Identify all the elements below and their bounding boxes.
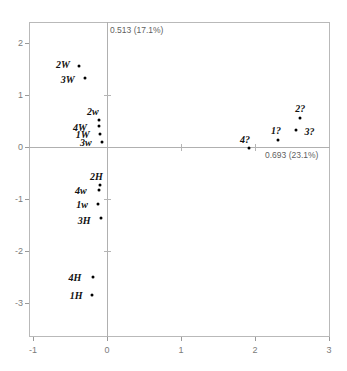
data-point-label: 3H <box>78 214 91 225</box>
y-tick-label: 2 <box>5 38 23 48</box>
data-point <box>91 276 94 279</box>
data-point-label: 4? <box>240 134 250 145</box>
data-point-label: 4H <box>69 272 82 283</box>
data-point <box>299 117 302 120</box>
x-tick <box>255 337 256 341</box>
data-point <box>97 125 100 128</box>
data-point-label: 1H <box>70 290 83 301</box>
data-point <box>83 76 86 79</box>
y-axis-inner-tick <box>104 251 111 252</box>
y-tick-label: -1 <box>5 194 23 204</box>
y-axis-inner-tick <box>104 199 111 200</box>
x-axis-caption: 0.693 (23.1%) <box>265 150 318 160</box>
data-point-label: 2W <box>56 59 70 70</box>
y-tick-label: 0 <box>5 142 23 152</box>
x-tick-label: 2 <box>252 345 257 355</box>
x-tick <box>107 337 108 341</box>
x-tick-label: 1 <box>178 345 183 355</box>
x-tick <box>181 337 182 341</box>
data-point <box>97 189 100 192</box>
data-point-label: 3w <box>80 136 92 147</box>
y-tick <box>25 199 29 200</box>
data-point <box>97 118 100 121</box>
y-tick-label: 1 <box>5 90 23 100</box>
data-point-label: 2? <box>295 103 305 114</box>
x-axis-inner-tick <box>255 144 256 151</box>
y-tick <box>25 303 29 304</box>
y-zero-axis <box>107 22 108 337</box>
data-point <box>77 65 80 68</box>
x-tick <box>33 337 34 341</box>
x-tick-label: 3 <box>326 345 331 355</box>
data-point <box>91 294 94 297</box>
data-point <box>100 140 103 143</box>
y-tick-label: -3 <box>5 298 23 308</box>
data-point-label: 3W <box>61 73 75 84</box>
x-zero-axis <box>29 147 330 148</box>
y-tick <box>25 95 29 96</box>
data-point-label: 2H <box>90 170 103 181</box>
data-point-label: 2w <box>87 105 99 116</box>
data-point <box>98 133 101 136</box>
data-point-label: 1w <box>76 199 88 210</box>
x-tick-label: 0 <box>104 345 109 355</box>
data-point <box>295 128 298 131</box>
data-point-label: 4w <box>75 185 87 196</box>
x-tick <box>329 337 330 341</box>
y-axis-inner-tick <box>104 95 111 96</box>
data-point <box>97 203 100 206</box>
y-tick-label: -2 <box>5 246 23 256</box>
data-point <box>100 216 103 219</box>
y-tick <box>25 251 29 252</box>
x-axis-inner-tick <box>181 144 182 151</box>
data-point <box>276 139 279 142</box>
scatter-plot: -10123210-1-2-3 0.513 (17.1%) 0.693 (23.… <box>0 0 347 371</box>
data-point-label: 1? <box>271 125 281 136</box>
data-point <box>99 183 102 186</box>
x-tick-label: -1 <box>29 345 37 355</box>
y-axis-caption: 0.513 (17.1%) <box>110 25 163 35</box>
y-tick <box>25 147 29 148</box>
y-tick <box>25 43 29 44</box>
data-point <box>248 147 251 150</box>
data-point-label: 3? <box>304 125 314 136</box>
